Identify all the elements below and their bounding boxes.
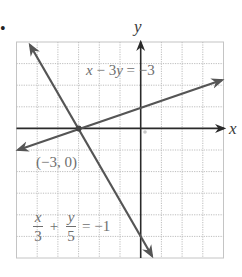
- svg-text:x: x: [34, 209, 42, 225]
- svg-text:3: 3: [34, 228, 42, 244]
- y-axis-label: y: [132, 17, 142, 36]
- svg-text:= −1: = −1: [82, 218, 110, 234]
- x-axis-label: x: [228, 119, 237, 138]
- label-line2: x 3 + y 5 = −1: [33, 209, 110, 244]
- svg-text:5: 5: [67, 228, 75, 244]
- label-point: (−3, 0): [36, 154, 77, 171]
- item-bullet: •: [0, 20, 6, 37]
- intersection-point: [76, 125, 82, 131]
- svg-text:y: y: [66, 209, 75, 225]
- graph-figure: • x y: [0, 0, 242, 277]
- label-line1: x − 3y = −3: [85, 62, 155, 78]
- smudge-mark: [143, 130, 147, 134]
- svg-text:+: +: [50, 218, 58, 234]
